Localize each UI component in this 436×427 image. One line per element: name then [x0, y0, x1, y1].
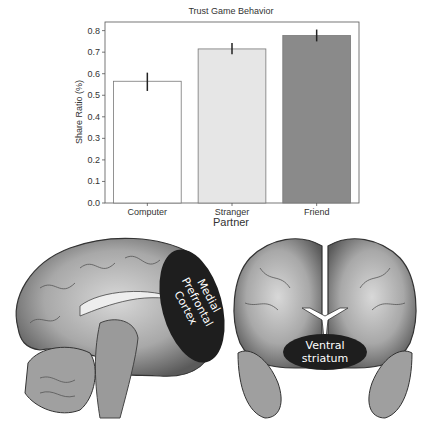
y-axis: 0.00.10.20.30.40.50.60.70.8 [87, 26, 105, 208]
brainstem [95, 320, 138, 418]
bars-group [113, 30, 350, 203]
sagittal-brain: Medial Prefrontal Cortex [16, 238, 236, 418]
x-axis-label: Partner [213, 216, 249, 228]
y-tick-label: 0.4 [87, 112, 100, 122]
bar-chart: Trust Game Behavior 0.00.10.20.30.40.50.… [0, 0, 436, 228]
y-tick-label: 0.8 [87, 26, 100, 36]
chart-title: Trust Game Behavior [188, 6, 273, 16]
bar-computer [113, 81, 181, 203]
cerebellum [25, 347, 95, 413]
bar-friend [283, 36, 351, 203]
x-axis: ComputerStrangerFriend [128, 203, 330, 217]
x-tick-label: Computer [128, 207, 168, 217]
y-axis-label: Share Ratio (%) [74, 80, 84, 144]
coronal-brain: Ventral striatum [234, 239, 416, 418]
y-tick-label: 0.3 [87, 133, 100, 143]
vs-label-line-1: Ventral [305, 339, 344, 352]
x-tick-label: Friend [304, 207, 330, 217]
brain-figure: Medial Prefrontal Cortex Ventral striatu… [0, 228, 436, 427]
y-tick-label: 0.5 [87, 90, 100, 100]
y-tick-label: 0.2 [87, 155, 100, 165]
bar-stranger [198, 49, 266, 203]
vs-label-line-2: striatum [302, 352, 348, 365]
y-tick-label: 0.7 [87, 47, 100, 57]
y-tick-label: 0.1 [87, 176, 100, 186]
y-tick-label: 0.0 [87, 198, 100, 208]
y-tick-label: 0.6 [87, 69, 100, 79]
